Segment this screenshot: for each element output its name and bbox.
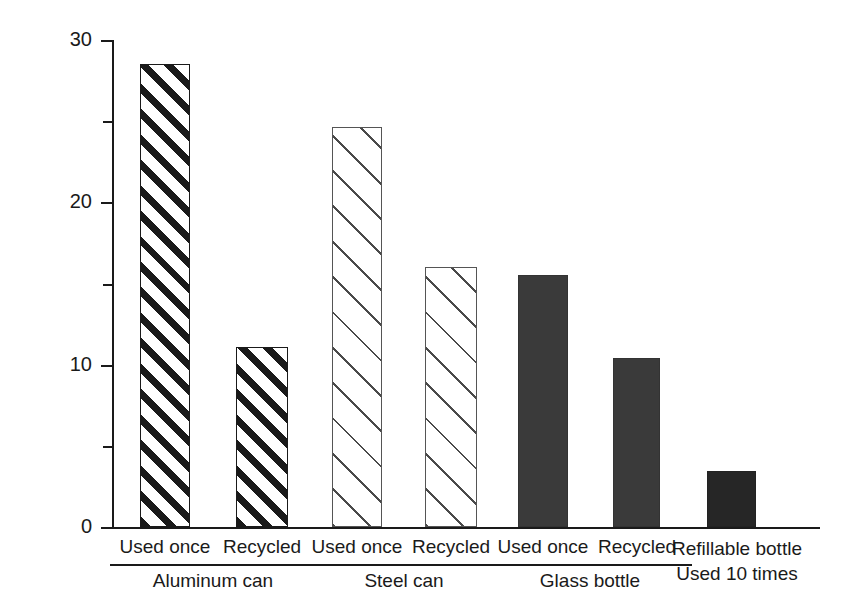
bar-glass-recycled[interactable] bbox=[613, 358, 660, 527]
bar-glass-used-once[interactable] bbox=[518, 275, 568, 527]
group-label-refillable-line2: Used 10 times bbox=[652, 561, 822, 586]
y-tick-label-20: 20 bbox=[70, 190, 92, 212]
y-axis-line bbox=[112, 40, 114, 529]
plot-area: 30 20 10 0 Used once Recycled Used once … bbox=[112, 40, 820, 529]
y-tick-30: 30 bbox=[101, 40, 112, 42]
group-label-steel: Steel can bbox=[302, 569, 506, 593]
y-tick-label-10: 10 bbox=[70, 353, 92, 375]
y-tick-10: 10 bbox=[101, 365, 112, 367]
bar-refillable-bottle[interactable] bbox=[707, 471, 756, 527]
y-tick-label-30: 30 bbox=[70, 28, 92, 50]
y-tick-label-0: 0 bbox=[81, 515, 92, 537]
group-rule-aluminum bbox=[110, 564, 316, 566]
y-tick-0: 0 bbox=[101, 527, 112, 529]
x-axis-line bbox=[112, 527, 820, 529]
x-sublabel-aluminum-used-once: Used once bbox=[107, 536, 223, 558]
group-label-refillable-line1: Refillable bottle bbox=[652, 536, 822, 561]
bar-aluminum-used-once[interactable] bbox=[140, 64, 190, 527]
group-label-refillable: Refillable bottle Used 10 times bbox=[652, 536, 822, 586]
bar-steel-recycled[interactable] bbox=[425, 267, 477, 527]
bar-aluminum-recycled[interactable] bbox=[236, 347, 288, 527]
y-tick-20: 20 bbox=[101, 202, 112, 204]
group-rule-steel bbox=[302, 564, 506, 566]
energy-consumed-bar-chart: Energy consumed (106 calories) 30 20 10 … bbox=[0, 0, 853, 612]
bar-steel-used-once[interactable] bbox=[332, 127, 382, 527]
group-label-aluminum: Aluminum can bbox=[110, 569, 316, 593]
y-tick-minor-25 bbox=[103, 121, 112, 123]
y-tick-minor-15 bbox=[103, 284, 112, 286]
y-tick-minor-5 bbox=[103, 446, 112, 448]
